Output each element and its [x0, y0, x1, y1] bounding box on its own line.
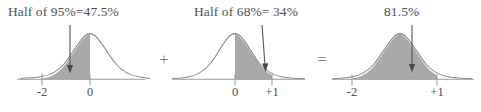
panel-middle-xtick-label-1: 0: [218, 85, 252, 99]
shaded-region: [42, 34, 90, 79]
panel-right-xtick-label-1: -2: [335, 85, 369, 99]
panel-left-caption: Half of 95%=47.5%: [8, 3, 119, 20]
operator-equals: =: [311, 52, 333, 68]
panel-middle-caption: Half of 68%= 34%: [194, 3, 298, 20]
shaded-region: [235, 34, 272, 79]
panel-left-xtick-label-2: 0: [73, 85, 107, 99]
panel-left-xtick-label-1: -2: [25, 85, 59, 99]
annotation-arrow-shaft: [262, 25, 265, 66]
normal-curve-area-figure: Half of 95%=47.5% -2 0 + Half of 68%= 34…: [0, 0, 481, 112]
panel-right-xtick-label-2: +1: [420, 85, 454, 99]
panel-left: Half of 95%=47.5% -2 0: [0, 0, 152, 112]
panel-right: 81.5% -2 +1: [332, 0, 481, 112]
panel-right-caption: 81.5%: [384, 3, 419, 20]
panel-middle: Half of 68%= 34% 0 +1: [172, 0, 312, 112]
panel-middle-xtick-label-2: +1: [255, 85, 289, 99]
